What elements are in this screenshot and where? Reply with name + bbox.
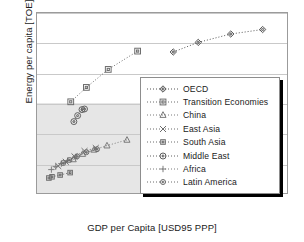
legend-label: Latin America [181,177,237,187]
legend-item-east-asia[interactable]: East Asia [145,122,276,135]
legend-item-transition-economies[interactable]: Transition Economies [145,95,276,108]
x-tick-label: 0 [36,193,40,194]
legend-label: OECD [181,84,208,94]
legend-item-latin-america[interactable]: Latin America [145,176,276,189]
data-point [135,48,141,54]
data-point [48,166,54,172]
legend-label: Middle East [181,151,230,161]
data-point [68,170,73,175]
series-transition-economies [68,48,141,104]
legend-label: South Asia [181,137,226,147]
data-point [124,137,130,143]
legend-marker-icon [145,176,181,188]
legend-label: East Asia [181,124,220,134]
legend-marker-icon [145,96,181,108]
legend-marker-icon [145,136,181,148]
series-south-asia [47,170,73,180]
data-point [75,113,81,119]
legend-item-middle-east[interactable]: Middle East [145,149,276,162]
legend-marker-icon [145,150,181,162]
legend-item-china[interactable]: China [145,109,276,122]
y-axis-title: Energy per capita [TOE] [23,0,34,127]
series-line [71,51,138,102]
data-point [53,163,59,169]
legend-item-south-asia[interactable]: South Asia [145,136,276,149]
legend-marker-icon [145,123,181,135]
data-point [105,67,111,73]
x-axis-title: GDP per Capita [USD95 PPP] [0,222,304,233]
chart-legend[interactable]: OECDTransition EconomiesChinaEast AsiaSo… [140,77,280,194]
legend-item-africa[interactable]: Africa [145,162,276,175]
legend-label: China [181,110,206,120]
legend-marker-icon [145,163,181,175]
energy-vs-gdp-scatter-chart: Energy per capita [TOE] GDP per Capita [… [0,0,304,242]
x-tick-mark [100,193,101,194]
legend-label: Africa [181,164,206,174]
data-point [58,173,63,178]
legend-item-oecd[interactable]: OECD [145,82,276,95]
x-tick-label: 10000 [85,193,114,194]
legend-label: Transition Economies [181,97,268,107]
series-oecd [170,26,266,55]
series-middle-east [71,106,88,125]
legend-marker-icon [145,109,181,121]
legend-marker-icon [145,83,181,95]
series-line [173,30,262,53]
x-tick-mark [37,193,38,194]
